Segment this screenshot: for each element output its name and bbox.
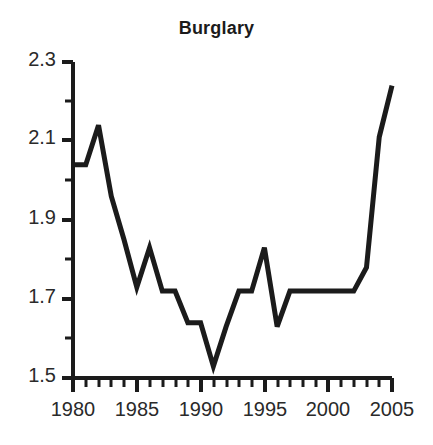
- y-tick-label-2-3: 2.3: [2, 48, 56, 71]
- y-tick-label-1-7: 1.7: [2, 285, 56, 308]
- x-tick-label-1980: 1980: [38, 398, 108, 421]
- x-tick-label-1995: 1995: [230, 398, 300, 421]
- x-tick-label-2005: 2005: [357, 398, 427, 421]
- x-major-ticks: [73, 378, 392, 392]
- y-tick-label-1-9: 1.9: [2, 206, 56, 229]
- x-tick-label-1990: 1990: [166, 398, 236, 421]
- y-tick-label-2-1: 2.1: [2, 126, 56, 149]
- burglary-chart: Burglary: [0, 0, 433, 445]
- x-tick-label-1985: 1985: [102, 398, 172, 421]
- y-tick-label-1-5: 1.5: [2, 364, 56, 387]
- x-tick-label-2000: 2000: [293, 398, 363, 421]
- data-series-burglary: [73, 86, 392, 366]
- chart-plot-area: [0, 0, 433, 445]
